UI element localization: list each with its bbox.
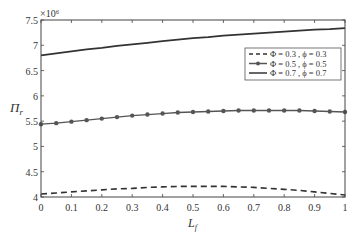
- series-marker: [191, 110, 195, 114]
- x-tick-label: 0.9: [308, 202, 321, 213]
- series-marker: [206, 109, 210, 113]
- series-marker: [130, 113, 134, 117]
- series-marker: [115, 115, 119, 119]
- series-marker: [69, 119, 73, 123]
- legend-label: Φ = 0.7 , ϕ = 0.7: [270, 68, 326, 78]
- series-marker: [312, 109, 316, 113]
- series-marker: [160, 111, 164, 115]
- x-tick-label: 0.1: [65, 202, 78, 213]
- legend: Φ = 0.3 , ϕ = 0.3Φ = 0.5 , ϕ = 0.5Φ = 0.…: [245, 48, 341, 80]
- y-tick-label: 6.5: [26, 66, 39, 77]
- x-tick-label: 0.8: [278, 202, 291, 213]
- legend-marker: [256, 62, 260, 66]
- legend-label: Φ = 0.5 , ϕ = 0.5: [270, 59, 326, 69]
- y-tick-label: 5.5: [26, 116, 39, 127]
- line-chart: 00.10.20.30.40.50.60.70.80.9144.555.566.…: [0, 0, 354, 236]
- y-tick-label: 7: [33, 40, 38, 51]
- series-marker: [252, 108, 256, 112]
- series-marker: [176, 110, 180, 114]
- series-marker: [221, 109, 225, 113]
- y-tick-label: 5: [33, 141, 38, 152]
- y-tick-label: 6: [33, 91, 38, 102]
- series-marker: [100, 116, 104, 120]
- y-tick-label: 4: [33, 192, 38, 203]
- x-tick-label: 0.6: [217, 202, 230, 213]
- axis-ticks: 00.10.20.30.40.50.60.70.80.9144.555.566.…: [26, 15, 348, 213]
- x-tick-label: 0.7: [248, 202, 261, 213]
- y-multiplier-label: ×10⁶: [40, 8, 60, 19]
- series-marker: [267, 108, 271, 112]
- series-marker: [54, 121, 58, 125]
- x-tick-label: 0.3: [126, 202, 139, 213]
- x-tick-label: 0.5: [187, 202, 200, 213]
- x-tick-label: 0.4: [156, 202, 169, 213]
- x-tick-label: 0.2: [96, 202, 109, 213]
- y-tick-label: 4.5: [26, 167, 39, 178]
- x-tick-label: 0: [39, 202, 44, 213]
- series-marker: [297, 108, 301, 112]
- x-axis-label: Lf: [187, 216, 199, 232]
- y-axis-label: Πr: [9, 100, 23, 117]
- series-line: [41, 186, 345, 195]
- series-marker: [328, 109, 332, 113]
- series-marker: [236, 108, 240, 112]
- series-marker: [145, 112, 149, 116]
- series-marker: [282, 108, 286, 112]
- y-tick-label: 7.5: [26, 15, 39, 26]
- series-marker: [84, 118, 88, 122]
- x-tick-label: 1: [343, 202, 348, 213]
- legend-label: Φ = 0.3 , ϕ = 0.3: [270, 49, 326, 59]
- chart-canvas: 00.10.20.30.40.50.60.70.80.9144.555.566.…: [0, 0, 354, 236]
